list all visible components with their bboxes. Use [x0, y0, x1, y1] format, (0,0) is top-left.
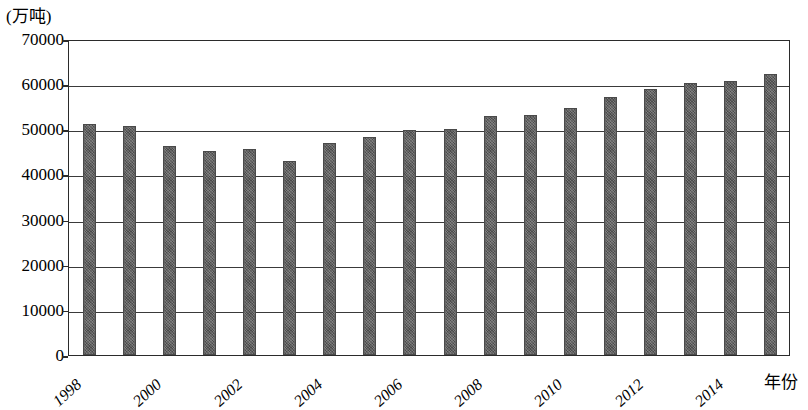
gridline: [69, 86, 789, 87]
bar: [524, 115, 537, 355]
bar: [363, 137, 376, 356]
x-axis-tick-label: 2010: [531, 375, 567, 410]
gridline: [69, 312, 789, 313]
bar: [564, 108, 577, 355]
bar: [684, 83, 697, 355]
y-axis-tick-label: 0: [0, 346, 64, 366]
bar: [83, 124, 96, 355]
y-axis-tick-label: 70000: [0, 30, 64, 50]
y-axis-tick-label: 60000: [0, 75, 64, 95]
bar: [283, 161, 296, 355]
bar: [764, 74, 777, 355]
x-axis-tick-label: 2012: [611, 375, 647, 410]
bar: [444, 129, 457, 355]
bar: [724, 81, 737, 355]
plot-area: [68, 40, 790, 356]
y-axis-tick-label: 40000: [0, 165, 64, 185]
x-axis-tick-label: 2014: [691, 375, 727, 410]
bar: [243, 149, 256, 355]
x-axis-tick-label: 1998: [49, 375, 85, 410]
x-axis-tick-label: 2008: [451, 375, 487, 410]
bar: [484, 116, 497, 355]
bar: [403, 130, 416, 355]
y-axis-tick-label: 10000: [0, 301, 64, 321]
y-axis-unit-label: (万吨): [6, 2, 51, 27]
gridline: [69, 222, 789, 223]
x-axis-tick-label: 2000: [130, 375, 166, 410]
gridline: [69, 267, 789, 268]
gridline: [69, 176, 789, 177]
y-axis-tick-label: 20000: [0, 256, 64, 276]
y-axis-tick-mark: [62, 356, 68, 358]
y-axis-tick-label: 50000: [0, 120, 64, 140]
gridline: [69, 131, 789, 132]
bar: [123, 126, 136, 356]
x-axis-tick-label: 2006: [370, 375, 406, 410]
bar: [163, 146, 176, 355]
bar: [604, 97, 617, 355]
x-axis-title: 年份: [764, 368, 798, 393]
bar: [323, 143, 336, 355]
x-axis-tick-label: 2002: [210, 375, 246, 410]
bar: [203, 151, 216, 355]
x-axis-tick-label: 2004: [290, 375, 326, 410]
y-axis-tick-label: 30000: [0, 211, 64, 231]
bar: [644, 89, 657, 355]
